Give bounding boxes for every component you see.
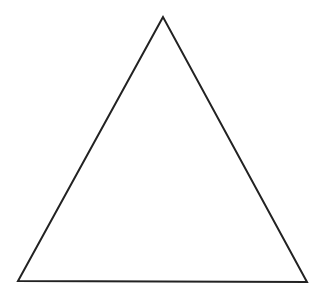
triangle-figure	[0, 0, 324, 295]
diagram-canvas	[0, 0, 324, 295]
triangle-shape	[18, 17, 307, 282]
